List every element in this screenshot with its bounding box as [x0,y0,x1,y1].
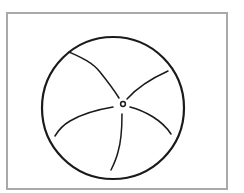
radial-line-upper-left [69,52,119,98]
center-ring [121,102,126,107]
radial-line-bottom [111,114,122,170]
circle-diagram [0,0,244,193]
radial-line-upper-right [127,71,168,99]
radial-line-left [55,107,113,136]
outer-circle [42,37,184,179]
radial-line-right [130,107,171,134]
